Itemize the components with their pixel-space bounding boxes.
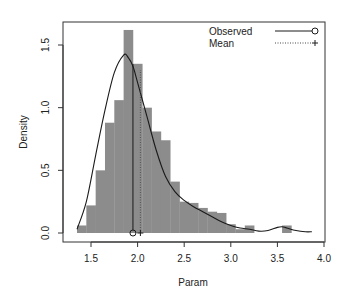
legend-circle-icon — [312, 28, 318, 34]
x-tick-label: 3.5 — [270, 253, 284, 264]
x-axis: 1.52.02.53.03.54.0 — [84, 242, 331, 264]
x-axis-label: Param — [178, 277, 207, 288]
histogram-bars — [77, 30, 292, 233]
histogram-bar — [86, 205, 96, 233]
y-tick-label: 0.0 — [40, 226, 51, 240]
x-tick-label: 4.0 — [317, 253, 331, 264]
histogram-bar — [96, 170, 106, 233]
histogram-bar — [180, 202, 190, 233]
legend-label-mean: Mean — [209, 38, 234, 49]
legend: Observed Mean — [209, 26, 318, 49]
x-tick-label: 2.5 — [177, 253, 191, 264]
histogram-bar — [124, 30, 134, 233]
histogram-bar — [235, 229, 245, 233]
y-tick-label: 1.5 — [40, 38, 51, 52]
y-axis: 0.00.51.01.5 — [40, 38, 63, 240]
histogram-bar — [161, 140, 171, 233]
y-axis-label: Density — [18, 115, 29, 148]
x-tick-label: 2.0 — [131, 253, 145, 264]
histogram-bar — [133, 64, 143, 233]
legend-plus-icon — [312, 40, 318, 46]
histogram-bar — [114, 100, 124, 233]
density-histogram-chart: 1.52.02.53.03.54.0 0.00.51.01.5 Param De… — [0, 0, 349, 292]
y-tick-label: 1.0 — [40, 100, 51, 114]
histogram-bar — [152, 131, 162, 233]
histogram-bar — [170, 182, 180, 233]
histogram-bar — [105, 123, 115, 233]
y-tick-label: 0.5 — [40, 163, 51, 177]
legend-label-observed: Observed — [209, 26, 252, 37]
x-tick-label: 1.5 — [84, 253, 98, 264]
histogram-bar — [142, 108, 152, 233]
x-tick-label: 3.0 — [224, 253, 238, 264]
histogram-bar — [189, 203, 199, 233]
